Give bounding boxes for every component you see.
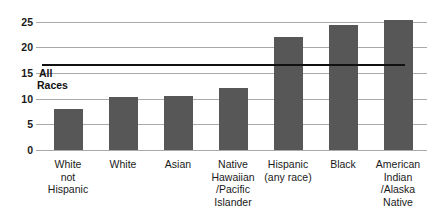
x-label-american-indian-alaska-native: American Indian /Alaska Native [370,158,426,208]
x-label-hispanic-any-race: Hispanic (any race) [260,158,316,183]
x-label-line: American [370,158,426,171]
bar-white-not-hispanic [54,109,83,150]
y-axis: 25 20 15 10 5 0 [0,0,33,216]
bar-native-hawaiian-pacific-islander [219,88,248,150]
bar-american-indian-alaska-native [384,20,413,150]
x-label-white: White [95,158,151,171]
x-label-white-not-hispanic: White not Hispanic [40,158,96,196]
all-races-label-line2: Races [37,80,68,92]
x-axis-labels: White not Hispanic White Asian Native Ha… [36,158,427,216]
bar-black [329,25,358,150]
x-label-line: /Pacific [205,183,261,196]
y-tick-0: 0 [7,145,33,156]
x-label-line: Indian [370,171,426,184]
x-label-line: Native [205,158,261,171]
x-label-line: /Alaska [370,183,426,196]
x-label-line: Asian [150,158,206,171]
x-label-line: (any race) [260,171,316,184]
all-races-label-line1: All [39,68,52,80]
x-label-line: Hispanic [260,158,316,171]
all-races-reference-line [42,64,405,66]
y-tick-5: 5 [7,119,33,130]
x-label-line: Black [315,158,371,171]
x-label-line: Native [370,196,426,209]
bar-hispanic-any-race [274,37,303,150]
x-label-line: not [40,171,96,184]
x-label-line: Hawaiian [205,171,261,184]
bar-white [109,97,138,150]
y-tick-10: 10 [7,94,33,105]
x-label-line: White [95,158,151,171]
bar-asian [164,96,193,150]
y-tick-15: 15 [7,68,33,79]
y-tick-20: 20 [7,42,33,53]
x-label-asian: Asian [150,158,206,171]
x-label-native-hawaiian-pacific-islander: Native Hawaiian /Pacific Islander [205,158,261,208]
x-label-line: Hispanic [40,183,96,196]
x-label-line: White [40,158,96,171]
y-tick-25: 25 [7,17,33,28]
bar-chart: 25 20 15 10 5 0 All Races White not Hisp… [0,0,439,216]
x-label-black: Black [315,158,371,171]
x-label-line: Islander [205,196,261,209]
